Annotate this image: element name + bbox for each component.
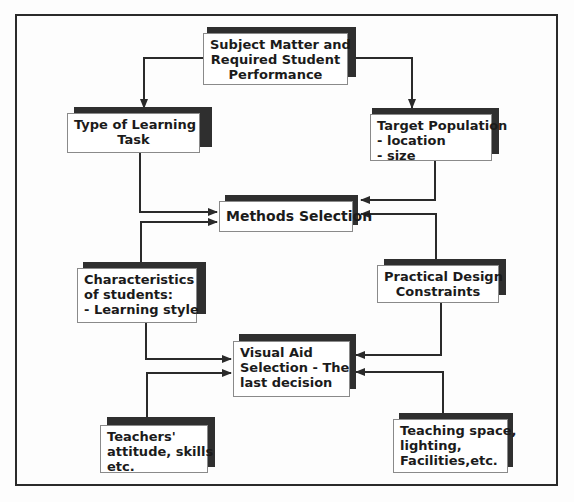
label-line: last decision bbox=[240, 375, 343, 390]
edge-subject-population bbox=[352, 58, 412, 108]
label-line: - location bbox=[377, 133, 485, 148]
edge-subject-task bbox=[144, 58, 203, 108]
box-teaching-space: Teaching space, lighting, Facilities,etc… bbox=[393, 419, 508, 473]
label-line: Selection - The bbox=[240, 360, 343, 375]
label-line: Target Population bbox=[377, 118, 485, 133]
edge-teachers-visual bbox=[147, 373, 231, 418]
label-line: Task bbox=[74, 132, 193, 147]
edge-constraints-visual bbox=[356, 303, 441, 355]
label-line: Visual Aid bbox=[240, 345, 343, 360]
edge-characteristics-visual bbox=[146, 323, 231, 359]
label-line: Performance bbox=[210, 67, 341, 82]
box-methods-selection: Methods Selection bbox=[219, 201, 353, 232]
label-line: Characteristics bbox=[84, 272, 190, 287]
box-visual-aid-selection: Visual Aid Selection - The last decision bbox=[233, 341, 350, 397]
label-line: Subject Matter and bbox=[210, 37, 341, 52]
label-line: - size bbox=[377, 148, 485, 163]
box-teachers-attitude: Teachers' attitude, skills etc. bbox=[100, 425, 208, 473]
label-line: Required Student bbox=[210, 52, 341, 67]
label-line: lighting, bbox=[400, 438, 501, 453]
label-line: Practical Design bbox=[384, 269, 492, 284]
edge-characteristics-methods bbox=[141, 222, 217, 266]
label-line: Teaching space, bbox=[400, 423, 501, 438]
box-characteristics-of-students: Characteristics of students: - Learning … bbox=[77, 268, 197, 323]
label-line: Type of Learning bbox=[74, 117, 193, 132]
edge-population-methods bbox=[361, 160, 435, 200]
label-line: - Learning style bbox=[84, 302, 190, 317]
label-line: Constraints bbox=[384, 284, 492, 299]
box-practical-design-constraints: Practical Design Constraints bbox=[377, 265, 499, 303]
edge-task-methods bbox=[140, 152, 217, 212]
label-line: Facilities,etc. bbox=[400, 453, 501, 468]
box-subject-matter: Subject Matter and Required Student Perf… bbox=[203, 33, 348, 85]
label-line: etc. bbox=[107, 459, 201, 474]
label-line: Teachers' bbox=[107, 429, 201, 444]
box-type-of-learning-task: Type of Learning Task bbox=[67, 113, 200, 153]
edge-space-visual bbox=[356, 372, 443, 414]
label-line: attitude, skills bbox=[107, 444, 201, 459]
box-target-population: Target Population - location - size bbox=[370, 114, 492, 161]
label-line: of students: bbox=[84, 287, 190, 302]
label-line: Methods Selection bbox=[226, 205, 346, 228]
edge-constraints-methods bbox=[361, 214, 436, 262]
